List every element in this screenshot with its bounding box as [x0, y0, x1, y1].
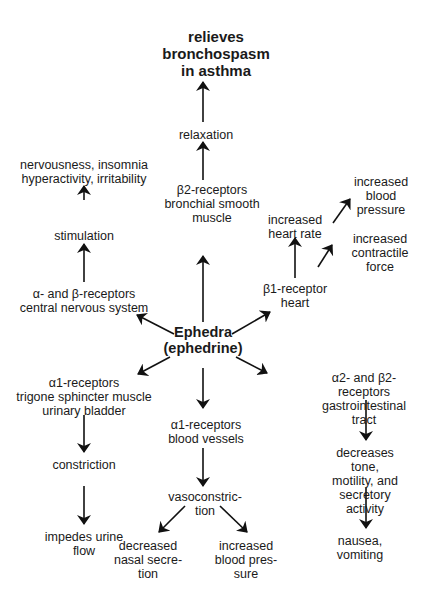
- node-increased-blood-pressure-heart: increased blood pressure: [351, 175, 411, 217]
- arrow-center-to-bladder: [138, 357, 170, 374]
- node-beta2-bronchial-smooth-muscle: β2-receptors bronchial smooth muscle: [164, 183, 259, 225]
- node-increased-blood-pressure-vessels: increased blood pres- sure: [215, 539, 278, 581]
- arrow-center-to-gi: [236, 357, 267, 373]
- node-increased-contractile-force: increased contractile force: [350, 232, 411, 274]
- node-stimulation: stimulation: [54, 229, 114, 243]
- node-impedes-urine-flow: impedes urine flow: [45, 530, 124, 558]
- node-cns-effects: nervousness, insomnia hyperactivity, irr…: [20, 158, 148, 186]
- node-decreased-nasal-secretion: decreased nasal secre- tion: [114, 539, 182, 581]
- node-alpha1-urinary-bladder: α1-receptors trigone sphincter muscle ur…: [16, 376, 151, 418]
- node-constriction: constriction: [52, 458, 115, 472]
- node-beta1-heart: β1-receptor heart: [263, 282, 327, 310]
- node-decreases-tone-motility: decreases tone, motility, and secretory …: [327, 446, 403, 516]
- node-vasoconstriction: vasoconstric- tion: [168, 490, 242, 518]
- node-relaxation: relaxation: [179, 128, 233, 142]
- arrow-heart-to-bp: [333, 199, 350, 223]
- outcome-relieves-bronchospasm: relieves bronchospasm in asthma: [162, 28, 270, 79]
- arrow-heart-to-force: [318, 245, 332, 267]
- node-ephedra-center: Ephedra (ephedrine): [164, 324, 243, 356]
- node-nausea-vomiting: nausea, vomiting: [337, 534, 384, 562]
- node-increased-heart-rate: increased heart rate: [268, 213, 322, 241]
- node-alpha2-beta2-gi-tract: α2- and β2- receptors gastrointestinal t…: [322, 371, 406, 427]
- node-alpha1-blood-vessels: α1-receptors blood vessels: [168, 418, 244, 446]
- node-alpha-beta-cns: α- and β-receptors central nervous syste…: [20, 287, 149, 315]
